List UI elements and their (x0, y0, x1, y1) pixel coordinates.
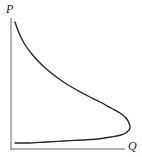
curve-group (15, 22, 130, 143)
figure-canvas (0, 0, 142, 157)
axes-group (11, 18, 125, 150)
horizontal-axis-label: Q (128, 140, 137, 152)
figure-container: P Q (0, 0, 142, 157)
vertical-axis-label: P (6, 3, 13, 15)
backward-bending-curve (15, 22, 130, 143)
